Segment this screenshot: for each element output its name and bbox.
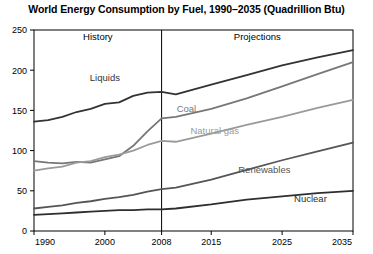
x-axis-ticks <box>34 231 353 235</box>
series-label-natural-gas: Natural gas <box>190 125 239 136</box>
x-axis-tick-labels: 199020002008201520252035 <box>35 237 352 247</box>
y-axis-tick-label: 150 <box>12 106 27 116</box>
x-axis-tick-label: 2025 <box>272 237 292 247</box>
series-label-coal: Coal <box>177 103 197 114</box>
y-axis-tick-labels: 050100150200250 <box>12 25 27 236</box>
series-label-renewables: Renewables <box>238 164 291 175</box>
series-label-liquids: Liquids <box>90 72 120 83</box>
period-label: History <box>83 31 113 42</box>
x-axis-tick-label: 2000 <box>95 237 115 247</box>
y-axis-ticks <box>30 30 34 231</box>
line-chart: 050100150200250 199020002008201520252035… <box>0 0 373 254</box>
series-label-nuclear: Nuclear <box>294 193 327 204</box>
x-axis-tick-label: 2008 <box>152 237 172 247</box>
y-axis-tick-label: 0 <box>22 226 27 236</box>
y-axis-tick-label: 250 <box>12 25 27 35</box>
period-label: Projections <box>234 31 281 42</box>
y-axis-tick-label: 200 <box>12 66 27 76</box>
chart-figure: World Energy Consumption by Fuel, 1990–2… <box>0 0 373 254</box>
y-axis-tick-label: 50 <box>17 186 27 196</box>
y-axis-tick-label: 100 <box>12 146 27 156</box>
x-axis-tick-label: 2035 <box>332 237 352 247</box>
x-axis-tick-label: 1990 <box>35 237 55 247</box>
x-axis-tick-label: 2015 <box>201 237 221 247</box>
